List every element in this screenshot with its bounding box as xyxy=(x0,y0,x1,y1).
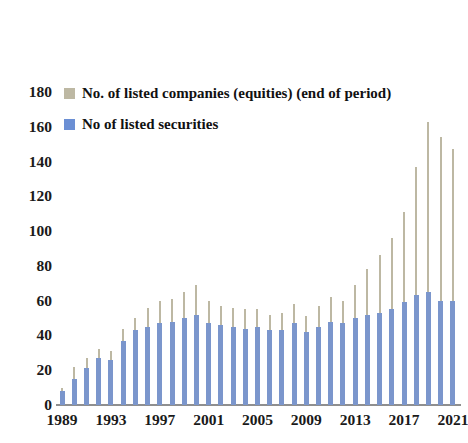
y-axis-tick-140: 140 xyxy=(8,154,52,170)
bar-securities xyxy=(402,302,407,405)
x-axis-tick-1997: 1997 xyxy=(144,412,175,428)
bar-group xyxy=(264,92,276,405)
bar-securities xyxy=(243,329,248,406)
bar-securities xyxy=(157,323,162,405)
bar-group xyxy=(239,92,251,405)
bar-securities xyxy=(121,341,126,405)
bar-securities xyxy=(218,325,223,405)
bar-group xyxy=(300,92,312,405)
x-axis-tick-1993: 1993 xyxy=(95,412,126,428)
x-axis-tick-2021: 2021 xyxy=(437,412,468,428)
x-axis-tick-2009: 2009 xyxy=(291,412,322,428)
bar-securities xyxy=(84,368,89,405)
y-axis-tick-60: 60 xyxy=(8,293,52,309)
bar-securities xyxy=(194,315,199,405)
bar-securities xyxy=(353,318,358,405)
bar-group xyxy=(166,92,178,405)
y-axis-tick-100: 100 xyxy=(8,223,52,239)
bar-group xyxy=(203,92,215,405)
bar-group xyxy=(141,92,153,405)
bar-group xyxy=(129,92,141,405)
bar-group xyxy=(312,92,324,405)
bar-group xyxy=(422,92,434,405)
bar-securities xyxy=(96,358,101,405)
bar-group xyxy=(93,92,105,405)
bar-securities xyxy=(450,301,455,405)
y-axis-tick-120: 120 xyxy=(8,189,52,205)
bar-group xyxy=(215,92,227,405)
x-axis-tick-2017: 2017 xyxy=(389,412,420,428)
y-axis-tick-20: 20 xyxy=(8,362,52,378)
bar-securities xyxy=(206,323,211,405)
bar-securities xyxy=(340,323,345,405)
bar-group xyxy=(386,92,398,405)
bar-group xyxy=(435,92,447,405)
bar-group xyxy=(178,92,190,405)
y-axis-tick-180: 180 xyxy=(8,84,52,100)
bar-group xyxy=(398,92,410,405)
bar-securities xyxy=(365,315,370,405)
bar-group xyxy=(337,92,349,405)
bar-securities xyxy=(72,379,77,405)
x-axis-tick-2013: 2013 xyxy=(340,412,371,428)
x-axis-tick-2005: 2005 xyxy=(242,412,273,428)
bar-group xyxy=(190,92,202,405)
bar-group xyxy=(361,92,373,405)
x-axis-tick-2001: 2001 xyxy=(193,412,224,428)
bar-securities xyxy=(170,322,175,405)
bar-group xyxy=(117,92,129,405)
bar-group xyxy=(80,92,92,405)
bar-group xyxy=(349,92,361,405)
bar-group xyxy=(374,92,386,405)
bar-group xyxy=(288,92,300,405)
bar-securities xyxy=(255,327,260,405)
bar-securities xyxy=(438,301,443,405)
bar-securities xyxy=(108,360,113,405)
bar-securities xyxy=(328,322,333,405)
bar-group xyxy=(227,92,239,405)
bar-group xyxy=(447,92,459,405)
bar-securities xyxy=(292,323,297,405)
bar-securities xyxy=(60,391,65,405)
bar-securities xyxy=(426,292,431,405)
bar-group xyxy=(56,92,68,405)
bar-securities xyxy=(316,327,321,405)
bar-securities xyxy=(279,330,284,405)
bar-securities xyxy=(377,313,382,405)
y-axis-tick-160: 160 xyxy=(8,119,52,135)
bar-securities xyxy=(267,330,272,405)
plot-area xyxy=(56,92,459,405)
bar-securities xyxy=(304,332,309,405)
y-axis-tick-0: 0 xyxy=(8,397,52,413)
bar-securities xyxy=(414,295,419,405)
bar-securities xyxy=(182,318,187,405)
bar-group xyxy=(276,92,288,405)
bar-group xyxy=(68,92,80,405)
bar-securities xyxy=(145,327,150,405)
bar-group xyxy=(105,92,117,405)
bar-securities xyxy=(231,327,236,405)
y-axis: 180160140120100806040200 xyxy=(0,0,52,443)
y-axis-tick-80: 80 xyxy=(8,258,52,274)
bar-group xyxy=(410,92,422,405)
bar-securities xyxy=(389,309,394,405)
bar-securities xyxy=(133,330,138,405)
x-axis: 198919931997200120052009201320172021 xyxy=(56,412,459,438)
x-axis-tick-1989: 1989 xyxy=(47,412,78,428)
bar-group xyxy=(154,92,166,405)
y-axis-tick-40: 40 xyxy=(8,328,52,344)
bar-group xyxy=(325,92,337,405)
bar-group xyxy=(251,92,263,405)
